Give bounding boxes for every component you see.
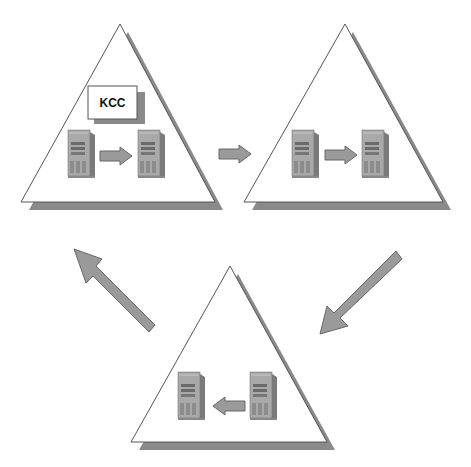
server-icon bbox=[292, 130, 319, 178]
site-link-arrow-right-icon bbox=[219, 145, 251, 163]
replication-diagram: KCC bbox=[0, 0, 471, 467]
kcc-label: KCC bbox=[100, 96, 126, 110]
site-1-triangle: KCC bbox=[21, 24, 223, 210]
kcc-box: KCC bbox=[88, 86, 145, 124]
server-icon bbox=[178, 372, 205, 420]
server-icon bbox=[138, 130, 165, 178]
site-3-triangle bbox=[131, 266, 335, 450]
server-icon bbox=[250, 372, 277, 420]
server-icon bbox=[68, 130, 95, 178]
server-icon bbox=[362, 130, 389, 178]
triangle bbox=[131, 266, 327, 442]
site-link-arrow-up-left-icon bbox=[74, 249, 155, 332]
triangle bbox=[244, 24, 443, 202]
site-2-triangle bbox=[244, 24, 451, 210]
site-link-arrow-down-left-icon bbox=[320, 251, 402, 334]
